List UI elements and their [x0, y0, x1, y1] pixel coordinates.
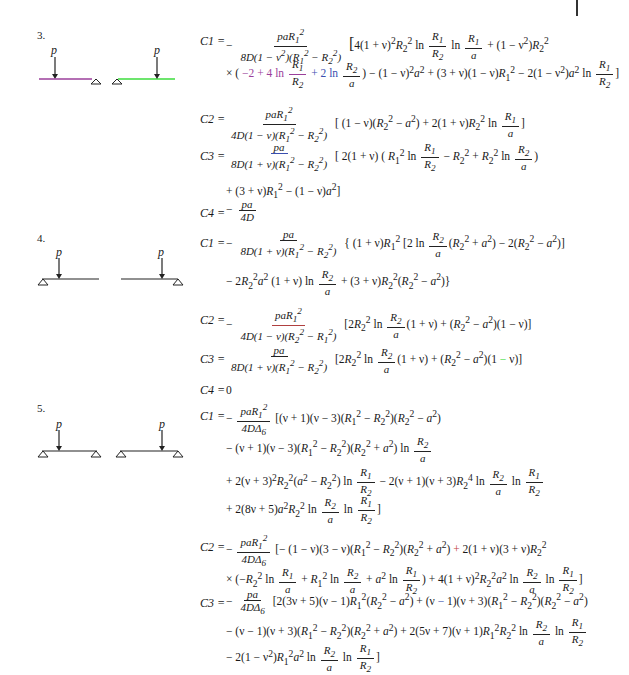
equation-c3-line-1: pa8D(1 + ν)(R12 − R22) [ 2(1 + ν) ( R12 … — [226, 141, 538, 174]
equation-c1-line-2: − 2R22a2 (1 + ν) ln R2a + (3 + ν)R22(R22… — [226, 268, 450, 297]
equation-c4: − pa4D — [226, 198, 259, 223]
equation-c3: pa8D(1 + ν)(R12 − R22) [2R22 ln R2a(1 + … — [226, 344, 522, 377]
eq-lhs-c3: C3 = — [200, 149, 225, 164]
eq-lhs-c2: C2 = — [200, 313, 225, 328]
equation-c1-line-2: − (ν + 1)(ν − 3)(R12 − R22)(R22 + a2) ln… — [226, 435, 433, 464]
eq-lhs-c2: C2 = — [200, 112, 225, 127]
equation-c1-line-4: + 2(8ν + 5)a2R22 ln R2a ln R1R2] — [226, 494, 381, 527]
page-edge-marker — [576, 0, 578, 16]
equation-c1-line-1: − pa8D(1 + ν)(R12 − R22) { (1 + ν)R12 [2… — [226, 228, 565, 261]
eq-lhs-c3: C3 = — [200, 596, 225, 611]
eq-lhs-c3: C3 = — [200, 352, 225, 367]
beam-diagram-case-3 — [0, 0, 220, 100]
equation-c2: paR124D(1 − ν)(R12 − R22) [ (1 − ν)(R22 … — [226, 104, 525, 145]
eq-lhs-c1: C1 = — [200, 34, 225, 49]
eq-lhs-c1: C1 = — [200, 409, 225, 424]
equation-c2: − paR124D(1 − ν)(R22 − R12) [2R22 ln R2a… — [226, 305, 531, 346]
beam-diagram-case-5 — [0, 400, 220, 480]
eq-lhs-c4: C4 = — [200, 206, 225, 221]
equation-c3-line-3: − 2(1 − ν2)R12a2 ln R2a ln R1R2] — [226, 642, 380, 675]
eq-lhs-c2: C2 = — [200, 540, 225, 555]
beam-diagram-case-4 — [0, 220, 220, 320]
equation-c4: 0 — [226, 383, 232, 397]
equation-c1-line-1: − paR124DΔ6 [(ν + 1)(ν − 3)(R12 − R22)(R… — [226, 401, 441, 438]
equation-c3-line-1: − pa4DΔ6 [2(3ν + 5)(ν − 1)R12(R22 − a2) … — [226, 588, 588, 617]
equation-c1-line-2: × ( −2 + 4 ln R1R2 + 2 ln R2a) − (1 − ν)… — [226, 58, 619, 91]
eq-lhs-c1: C1 = — [200, 236, 225, 251]
eq-lhs-c4: C4 = — [200, 383, 225, 398]
